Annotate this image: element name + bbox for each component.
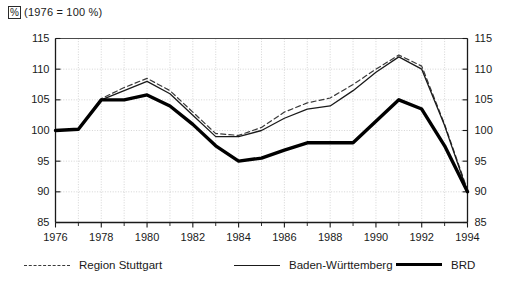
legend-label: BRD: [451, 259, 475, 271]
x-axis-tick: 1984: [217, 232, 261, 243]
y-axis-tick-left: 100: [20, 125, 50, 136]
y-axis-tick-left: 85: [20, 217, 50, 228]
legend-item: BRD: [396, 248, 475, 281]
y-axis-tick-right: 105: [475, 94, 507, 105]
y-axis-tick-right: 110: [475, 64, 507, 75]
legend-item: Baden-Württemberg: [234, 248, 393, 281]
y-axis-tick-left: 95: [20, 156, 50, 167]
y-axis-tick-right: 115: [475, 33, 507, 44]
x-axis-tick: 1982: [171, 232, 215, 243]
y-axis-tick-left: 90: [20, 186, 50, 197]
x-axis-tick: 1976: [34, 232, 78, 243]
x-axis-tick: 1994: [446, 232, 490, 243]
chart-container: %(1976 = 100 %) 858590909595100100105105…: [0, 0, 524, 281]
y-axis-tick-right: 100: [475, 125, 507, 136]
y-axis-tick-left: 110: [20, 64, 50, 75]
legend-item: Region Stuttgart: [24, 248, 162, 281]
y-axis-tick-left: 105: [20, 94, 50, 105]
legend-line-swatch: [234, 259, 280, 271]
x-axis-tick: 1980: [125, 232, 169, 243]
legend-label: Region Stuttgart: [79, 259, 162, 271]
legend-label: Baden-Württemberg: [289, 259, 393, 271]
x-axis-tick: 1988: [308, 232, 352, 243]
x-axis-tick: 1978: [79, 232, 123, 243]
y-axis-tick-left: 115: [20, 33, 50, 44]
x-axis-tick: 1986: [262, 232, 306, 243]
y-axis-tick-right: 95: [475, 156, 507, 167]
y-axis-tick-right: 85: [475, 217, 507, 228]
chart-legend: Region StuttgartBaden-WürttembergBRD: [0, 248, 524, 281]
legend-line-swatch: [24, 259, 70, 271]
x-axis-tick: 1990: [354, 232, 398, 243]
x-axis-tick: 1992: [400, 232, 444, 243]
y-axis-tick-right: 90: [475, 186, 507, 197]
legend-line-swatch: [396, 259, 442, 271]
